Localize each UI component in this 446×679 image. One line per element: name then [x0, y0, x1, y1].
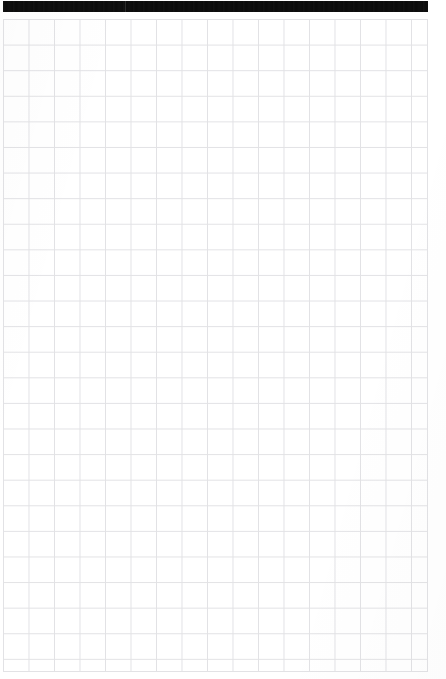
- header-divider: [125, 1, 126, 12]
- header-bar: [3, 1, 428, 12]
- page-canvas: [0, 0, 446, 679]
- grid-sheet: [3, 19, 428, 672]
- right-page-margin: [428, 0, 446, 679]
- bottom-page-margin: [0, 672, 446, 679]
